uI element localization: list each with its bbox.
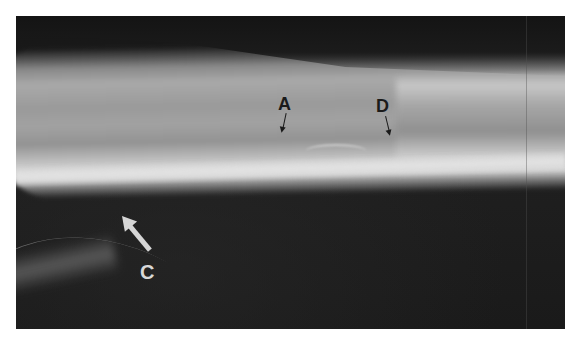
label-d: D [376, 97, 389, 115]
fracture-line [306, 144, 366, 158]
label-a: A [278, 95, 291, 113]
film-artifact-line [526, 16, 527, 329]
xray-image [16, 16, 565, 329]
label-c: C [140, 262, 154, 282]
